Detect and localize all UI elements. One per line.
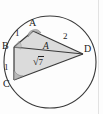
side-label-ab: 1 xyxy=(15,29,20,38)
geometry-figure: A B C D 1 1 2 A √7 xyxy=(0,0,103,114)
diagonal-length-label: √7 xyxy=(33,57,44,67)
geometry-canvas xyxy=(0,0,103,114)
interior-area-label: A xyxy=(43,42,49,52)
vertex-label-a: A xyxy=(29,18,36,28)
radicand-value: 7 xyxy=(38,56,44,67)
side-label-ad: 2 xyxy=(63,32,68,41)
side-label-bc: 1 xyxy=(4,63,9,72)
page-edge-rule xyxy=(98,0,99,114)
radical-group: √7 xyxy=(33,57,44,67)
vertex-label-b: B xyxy=(2,41,9,51)
vertex-label-d: D xyxy=(84,44,91,54)
vertex-label-c: C xyxy=(3,79,10,89)
